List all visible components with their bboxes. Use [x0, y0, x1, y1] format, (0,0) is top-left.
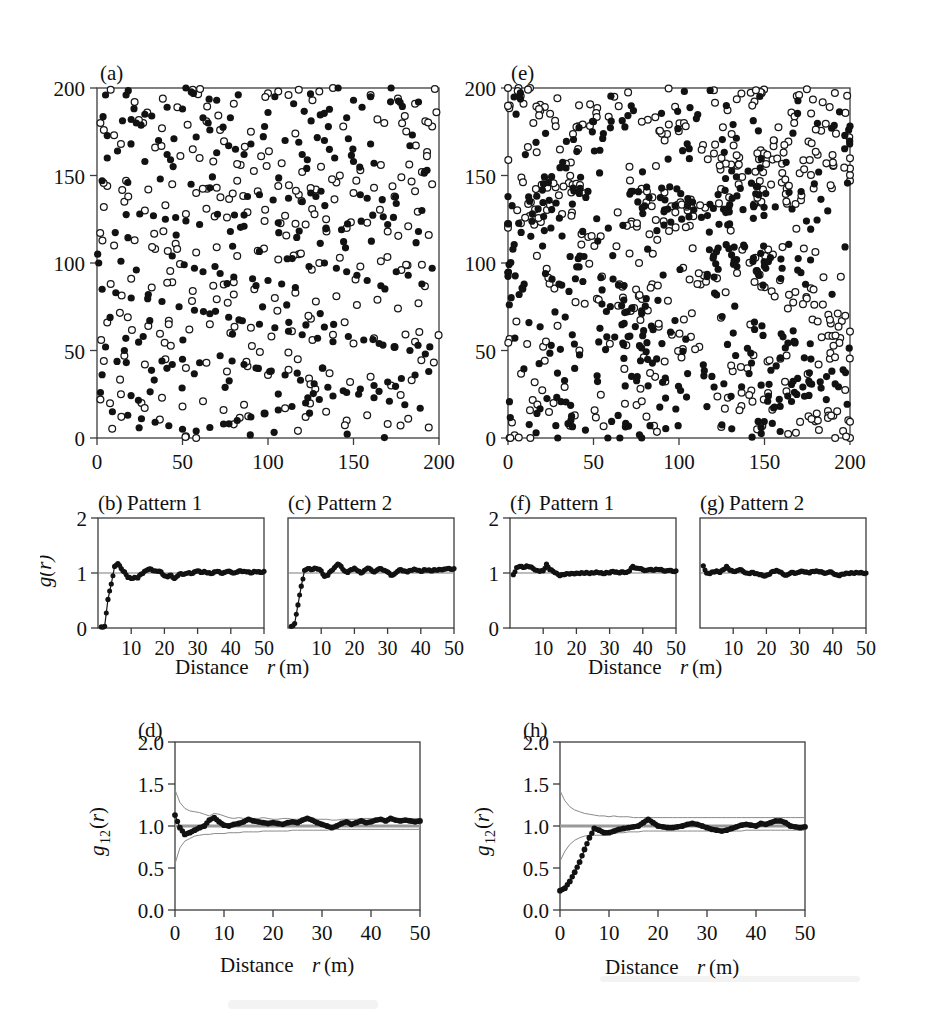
filled-point	[672, 405, 679, 412]
filled-point	[256, 191, 263, 198]
filled-point	[732, 352, 739, 359]
filled-point	[206, 96, 213, 103]
point-cloud	[504, 85, 853, 442]
filled-point	[561, 377, 568, 384]
filled-point	[124, 179, 131, 186]
observed-g12-point	[287, 820, 292, 825]
filled-point	[240, 361, 247, 368]
filled-point	[823, 373, 830, 380]
filled-point	[294, 370, 301, 377]
filled-point	[317, 188, 324, 195]
filled-point	[693, 115, 700, 122]
filled-point	[264, 109, 271, 116]
page-artifact-smudge	[228, 1000, 378, 1009]
filled-point	[127, 140, 134, 147]
distance-word-fg: Distance	[588, 655, 661, 679]
observed-g12-point	[376, 817, 381, 822]
panel-d-svg: (d) g 12 ( r ) 010203040500.00.51.01.52.…	[75, 712, 475, 1012]
observed-g12-point	[341, 820, 346, 825]
filled-point	[798, 188, 805, 195]
filled-point	[240, 211, 247, 218]
open-point	[652, 114, 659, 121]
open-point	[165, 321, 172, 328]
filled-point	[823, 396, 830, 403]
open-point	[800, 157, 807, 164]
filled-point	[321, 137, 328, 144]
y-tick-label: 50	[64, 340, 85, 364]
open-point	[364, 219, 371, 226]
gr-point	[294, 612, 299, 617]
observed-g12-point	[219, 821, 224, 826]
open-point	[771, 293, 778, 300]
filled-point	[654, 297, 661, 304]
open-point	[197, 86, 204, 93]
filled-point	[814, 120, 821, 127]
open-point	[737, 364, 744, 371]
filled-point	[510, 93, 517, 100]
filled-point	[790, 338, 797, 345]
filled-point	[358, 104, 365, 111]
filled-point	[723, 102, 730, 109]
observed-g12-point	[643, 818, 648, 823]
filled-point	[535, 205, 542, 212]
filled-point	[319, 364, 326, 371]
filled-point	[745, 370, 752, 377]
open-point	[285, 349, 292, 356]
open-point	[692, 346, 699, 353]
open-point	[371, 184, 378, 191]
filled-point	[364, 195, 371, 202]
open-point	[184, 121, 191, 128]
filled-point	[593, 215, 600, 222]
observed-g12-point	[633, 824, 638, 829]
filled-point	[504, 193, 511, 200]
filled-point	[527, 233, 534, 240]
observed-g12-point	[761, 821, 766, 826]
filled-point	[206, 184, 213, 191]
filled-point	[187, 181, 194, 188]
open-point	[614, 209, 621, 216]
filled-point	[344, 431, 351, 438]
open-point	[323, 408, 330, 415]
lower-envelope-line	[560, 830, 805, 861]
filled-point	[285, 319, 292, 326]
observed-g12-point	[736, 823, 741, 828]
filled-point	[569, 200, 576, 207]
filled-point	[162, 216, 169, 223]
open-point	[801, 166, 808, 173]
filled-point	[846, 138, 853, 145]
open-point	[749, 398, 756, 405]
filled-point	[222, 384, 229, 391]
y-tick-label: 2.0	[138, 731, 164, 755]
open-point	[167, 268, 174, 275]
observed-g12-point	[692, 821, 697, 826]
filled-point	[729, 195, 736, 202]
filled-point	[316, 396, 323, 403]
open-point	[162, 202, 169, 209]
open-point	[157, 330, 164, 337]
open-point	[661, 358, 668, 365]
filled-point	[715, 221, 722, 228]
filled-point	[136, 424, 143, 431]
panel-h-ylabel-arg: (	[470, 822, 494, 829]
panel-c-plotbox: 1020304050	[288, 518, 464, 659]
filled-point	[211, 263, 218, 270]
filled-point	[579, 278, 586, 285]
filled-point	[779, 333, 786, 340]
open-point	[775, 124, 782, 131]
open-point	[174, 246, 181, 253]
filled-point	[547, 224, 554, 231]
filled-point	[673, 185, 680, 192]
filled-point	[306, 410, 313, 417]
filled-point	[562, 313, 569, 320]
open-point	[177, 153, 184, 160]
panel-h-ylabel-g: g	[470, 846, 494, 857]
filled-point	[99, 371, 106, 378]
filled-point	[633, 377, 640, 384]
filled-point	[721, 187, 728, 194]
filled-point	[729, 121, 736, 128]
open-point	[834, 310, 841, 317]
x-tick-label: 150	[338, 450, 370, 474]
observed-g12-point	[346, 820, 351, 825]
open-point	[248, 324, 255, 331]
open-point	[294, 356, 301, 363]
